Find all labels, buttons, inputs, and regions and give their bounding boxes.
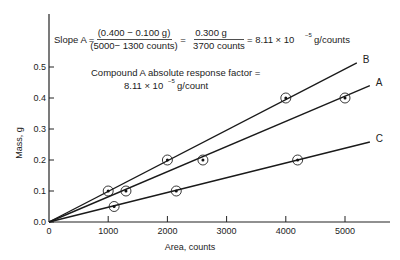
slope-unit: g/counts: [314, 34, 350, 45]
response-factor-note: Compound A absolute response factor = 8.…: [91, 67, 261, 91]
y-tick-label: 0.2: [33, 155, 46, 165]
response-factor-line1: Compound A absolute response factor =: [91, 67, 261, 78]
series-group: BAC: [49, 54, 383, 222]
equals-1: =: [180, 34, 186, 45]
series-label: B: [363, 54, 370, 65]
series-A: A: [49, 77, 383, 222]
x-ticks: 010002000300040005000: [46, 216, 355, 236]
y-axis-title: Mass, g: [14, 127, 24, 159]
series-label: A: [376, 77, 383, 88]
series-C: C: [49, 133, 383, 222]
y-tick-label: 0.1: [33, 186, 46, 196]
x-tick-label: 2000: [157, 226, 177, 236]
x-tick-label: 0: [46, 226, 51, 236]
y-tick-label: 0.3: [33, 124, 46, 134]
slope-numerator-1: (0.400 − 0.100 g): [98, 27, 171, 38]
slope-numerator-2: 0.300 g: [195, 27, 227, 38]
y-tick-label: 0.0: [33, 217, 46, 227]
slope-prefix: Slope A =: [54, 34, 95, 45]
y-ticks: 0.00.10.20.30.40.5: [33, 62, 54, 227]
x-tick-label: 4000: [276, 226, 296, 236]
slope-denominator-1: (5000− 1300 counts): [90, 40, 177, 51]
x-axis-title: Area, counts: [165, 242, 216, 252]
series-label: C: [376, 133, 383, 144]
x-tick-label: 1000: [98, 226, 118, 236]
slope-exponent: −5: [305, 32, 313, 38]
response-factor-value: 8.11 × 10: [124, 80, 163, 91]
slope-denominator-2: 3700 counts: [193, 40, 245, 51]
slope-result: = 8.11 × 10: [247, 34, 294, 45]
x-tick-label: 3000: [217, 226, 237, 236]
y-tick-label: 0.4: [33, 93, 46, 103]
y-tick-label: 0.5: [33, 62, 46, 72]
response-factor-unit: g/count: [177, 80, 209, 91]
slope-formula: Slope A = (0.400 − 0.100 g) (5000− 1300 …: [54, 27, 350, 51]
chart-canvas: 0.00.10.20.30.40.5 010002000300040005000…: [0, 0, 400, 260]
x-tick-label: 5000: [335, 226, 355, 236]
series-B: B: [49, 54, 370, 222]
response-factor-exponent: −5: [168, 78, 176, 84]
